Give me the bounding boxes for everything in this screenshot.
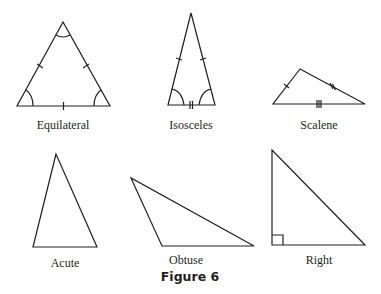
isosceles-triangle [168, 13, 215, 109]
angle-arc [94, 90, 101, 106]
right-triangle [272, 150, 365, 245]
figure-caption: Figure 6 [161, 269, 219, 284]
angle-arc [26, 90, 33, 106]
obtuse-triangle [131, 178, 254, 246]
scalene-triangle [273, 69, 365, 108]
label-right: Right [306, 253, 333, 268]
equilateral-triangle [17, 22, 110, 110]
angle-arc [172, 89, 184, 105]
right-angle-marker [272, 235, 283, 245]
label-equilateral: Equilateral [37, 118, 90, 133]
label-obtuse: Obtuse [169, 253, 203, 268]
label-isosceles: Isosceles [169, 118, 212, 133]
angle-arc [56, 35, 70, 37]
angle-arc [199, 89, 211, 105]
label-acute: Acute [51, 256, 80, 271]
acute-triangle [33, 154, 97, 247]
label-scalene: Scalene [300, 118, 337, 133]
triangle-types-diagram [0, 0, 381, 294]
